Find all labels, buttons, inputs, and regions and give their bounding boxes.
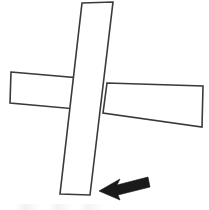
figure-canvas (0, 0, 209, 210)
line-drawing-figure (0, 0, 209, 210)
horizontal-bar-left-shape (10, 72, 80, 109)
